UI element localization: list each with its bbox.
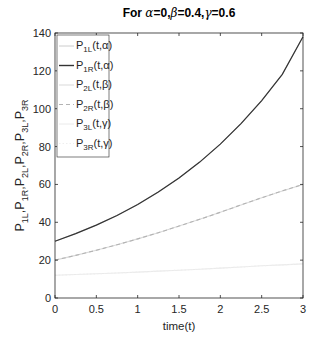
y-tick-label: 100	[33, 103, 51, 115]
y-tick-label: 120	[33, 65, 51, 77]
line-chart: For α=0,β=0.4,γ=0.6 00.511.522.530204060…	[0, 0, 322, 351]
x-tick-label: 0.5	[89, 303, 104, 315]
y-tick-label: 140	[33, 27, 51, 39]
x-tick-label: 2	[217, 303, 223, 315]
x-tick-label: 2.5	[254, 303, 269, 315]
y-tick-label: 80	[39, 141, 51, 153]
legend: P1L(t,α)P1R(t,α)P2L(t,β)P2R(t,β)P3L(t,γ)…	[57, 35, 113, 157]
y-tick-label: 20	[39, 254, 51, 266]
x-tick-label: 3	[300, 303, 306, 315]
chart-title-text: For α=0,β=0.4,γ=0.6	[123, 6, 236, 20]
y-tick-label: 60	[39, 178, 51, 190]
y-tick-label: 40	[39, 216, 51, 228]
x-tick-label: 1	[135, 303, 141, 315]
x-axis-label: time(t)	[163, 320, 196, 332]
y-tick-label: 0	[45, 292, 51, 304]
x-tick-label: 1.5	[171, 303, 186, 315]
chart-title: For α=0,β=0.4,γ=0.6	[123, 6, 236, 20]
x-tick-label: 0	[52, 303, 58, 315]
